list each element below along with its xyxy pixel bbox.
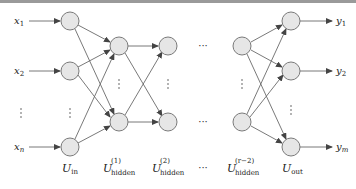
node-h2-bottom (159, 113, 177, 131)
node-out-2 (282, 62, 300, 80)
edges-in-to-hidden1 (75, 25, 114, 143)
node-h1-top (110, 37, 128, 55)
layer-labels: Uin U (1) hidden U (2) hidden U (r−2) hi… (62, 157, 303, 177)
input-arrows (29, 21, 60, 147)
layer-label-in: Uin (62, 162, 79, 176)
output-label-2: y2 (335, 65, 346, 78)
output-arrows (300, 21, 332, 147)
input-labels: x1 x2 xn (14, 15, 25, 154)
layer-label-hidden2: U (2) hidden (152, 157, 185, 177)
svg-text:hidden: hidden (111, 169, 136, 177)
node-out-m (282, 138, 300, 156)
output-label-m: ym (335, 141, 349, 154)
svg-text:(1): (1) (111, 157, 121, 165)
ellipsis-bottom: ··· (198, 116, 208, 127)
node-in-2 (61, 62, 79, 80)
node-hr-bottom (233, 113, 251, 131)
node-in-n (61, 138, 79, 156)
svg-text:(r−2): (r−2) (235, 157, 254, 165)
input-label-1: x1 (14, 15, 24, 28)
output-label-1: y1 (335, 15, 346, 28)
svg-text:hidden: hidden (160, 169, 185, 177)
edges-hidden1-to-hidden2 (125, 46, 162, 122)
input-label-n: xn (14, 141, 25, 154)
edges-hiddenr-to-out (247, 25, 286, 143)
layer-label-hiddenr: U (r−2) hidden (227, 157, 260, 177)
ellipsis-label: ··· (198, 162, 208, 173)
vertical-ellipsis-marks (20, 79, 292, 118)
svg-text:hidden: hidden (235, 169, 260, 177)
neural-network-diagram: ··· ··· ··· x1 x2 xn y1 y2 ym Uin U (1) … (0, 0, 356, 189)
output-labels: y1 y2 ym (335, 15, 349, 154)
node-h1-bottom (110, 113, 128, 131)
layer-out-nodes (282, 12, 300, 156)
node-hr-top (233, 37, 251, 55)
layer-in-nodes (61, 12, 79, 156)
node-in-1 (61, 12, 79, 30)
node-out-1 (282, 12, 300, 30)
ellipsis-top: ··· (198, 40, 208, 51)
layer-label-out: Uout (282, 162, 303, 176)
layer-label-hidden1: U (1) hidden (103, 157, 136, 177)
svg-text:(2): (2) (160, 157, 170, 165)
input-label-2: x2 (14, 65, 24, 78)
node-h2-top (159, 37, 177, 55)
